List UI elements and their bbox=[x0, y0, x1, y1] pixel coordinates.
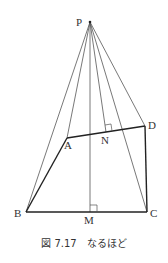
label-P: P bbox=[76, 17, 82, 28]
lateral-edges bbox=[26, 22, 147, 212]
edge-DC bbox=[145, 126, 147, 212]
label-A: A bbox=[64, 140, 72, 151]
edge-PC bbox=[90, 22, 147, 212]
label-C: C bbox=[150, 208, 157, 219]
edge-BA bbox=[26, 138, 67, 212]
label-D: D bbox=[148, 120, 156, 131]
label-B: B bbox=[14, 208, 21, 219]
base-quadrilateral bbox=[26, 126, 147, 212]
edge-PD bbox=[90, 22, 145, 126]
figure-caption: 図 7.17なるほど bbox=[0, 235, 168, 250]
caption-number: 図 7.17 bbox=[41, 238, 76, 249]
right-angle-M bbox=[90, 205, 97, 212]
edge-PB bbox=[26, 22, 90, 212]
edge-PN bbox=[90, 22, 106, 132]
apex-point bbox=[89, 21, 92, 24]
label-N: N bbox=[101, 135, 109, 146]
label-M: M bbox=[84, 215, 94, 226]
caption-text: なるほど bbox=[87, 238, 127, 249]
